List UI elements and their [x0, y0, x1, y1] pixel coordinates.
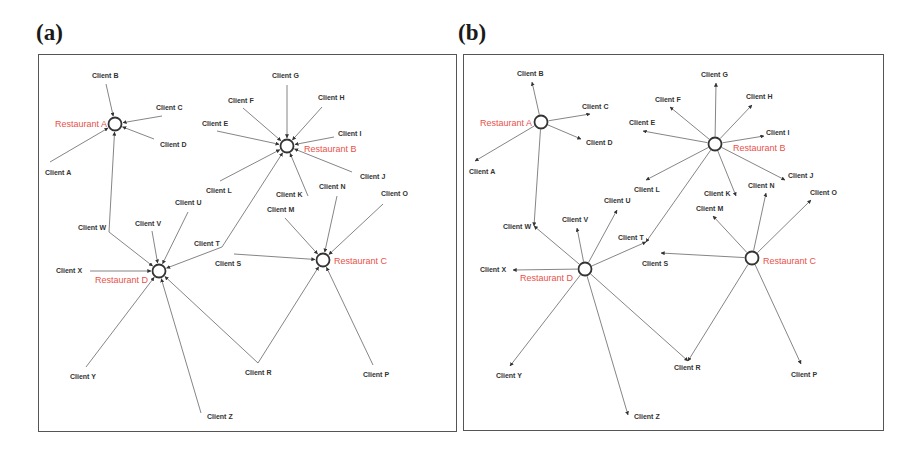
- label-client-i: Client I: [338, 130, 361, 137]
- label-client-y: Client Y: [496, 372, 522, 379]
- edge-client-a-to-restaurant-a: [50, 128, 108, 162]
- label-client-g: Client G: [272, 72, 299, 79]
- label-restaurant-b: Restaurant B: [304, 144, 357, 154]
- node-restaurant-a: [109, 118, 122, 131]
- label-client-u: Client U: [175, 199, 201, 206]
- node-restaurant-c: [746, 252, 759, 265]
- edge-restaurant-d-to-client-w: [534, 226, 579, 264]
- label-client-d: Client D: [586, 139, 612, 146]
- label-client-j: Client J: [788, 172, 813, 179]
- label-client-o: Client O: [810, 189, 837, 196]
- node-restaurant-d: [153, 265, 166, 278]
- edge-client-t-to-restaurant-b: [222, 153, 283, 247]
- edge-client-k-to-restaurant-b: [290, 153, 308, 196]
- edge-restaurant-b-to-client-l: [646, 147, 708, 180]
- edge-restaurant-b-to-client-g: [715, 83, 716, 137]
- edge-restaurant-d-to-client-x: [513, 269, 578, 270]
- label-client-v: Client V: [135, 220, 161, 227]
- label-client-p: Client P: [363, 371, 389, 378]
- edge-client-d-to-restaurant-a: [122, 127, 154, 139]
- edge-restaurant-c-to-client-n: [754, 193, 766, 251]
- label-client-f: Client F: [228, 97, 254, 104]
- label-client-w: Client W: [78, 224, 106, 231]
- edge-restaurant-d-to-client-v: [577, 228, 584, 262]
- label-restaurant-c: Restaurant C: [763, 256, 817, 266]
- edge-client-o-to-restaurant-c: [329, 204, 383, 255]
- edge-client-h-to-restaurant-b: [292, 107, 322, 140]
- edge-restaurant-c-to-client-p: [755, 265, 801, 364]
- label-client-z: Client Z: [634, 413, 660, 420]
- label-client-m: Client M: [696, 205, 723, 212]
- edge-restaurant-d-to-client-z: [587, 276, 628, 415]
- edge-client-z-to-restaurant-d: [161, 279, 201, 413]
- node-restaurant-b: [281, 140, 294, 153]
- label-restaurant-a: Restaurant A: [480, 118, 532, 128]
- node-restaurant-a: [535, 116, 548, 129]
- label-client-x: Client X: [56, 267, 82, 274]
- edge-client-v-to-restaurant-d: [152, 231, 158, 263]
- label-client-n: Client N: [748, 182, 774, 189]
- edge-restaurant-a-to-client-d: [548, 125, 581, 139]
- label-client-x: Client X: [480, 266, 506, 273]
- label-client-u: Client U: [604, 197, 630, 204]
- label-client-z: Client Z: [207, 413, 233, 420]
- label-client-s: Client S: [215, 260, 241, 267]
- label-client-p: Client P: [791, 371, 817, 378]
- network-diagrams: Restaurant ARestaurant BRestaurant CRest…: [0, 0, 915, 449]
- label-client-y: Client Y: [70, 373, 96, 380]
- label-client-l: Client L: [206, 187, 232, 194]
- edge-client-t-to-restaurant-d: [166, 247, 222, 268]
- label-restaurant-d: Restaurant D: [95, 275, 149, 285]
- label-client-d: Client D: [160, 141, 186, 148]
- label-client-c: Client C: [582, 103, 608, 110]
- node-restaurant-b: [709, 138, 722, 151]
- label-client-v: Client V: [562, 216, 588, 223]
- edge-restaurant-a-to-client-a: [475, 126, 535, 161]
- label-client-r: Client R: [674, 364, 700, 371]
- edge-restaurant-c-to-client-s: [661, 253, 745, 258]
- label-client-t: Client T: [194, 240, 220, 247]
- label-client-a: Client A: [469, 168, 495, 175]
- edge-client-p-to-restaurant-c: [326, 267, 373, 365]
- label-client-o: Client O: [381, 190, 408, 197]
- edge-restaurant-d-to-client-y: [510, 275, 580, 366]
- label-client-t: Client T: [618, 234, 644, 241]
- label-client-h: Client H: [318, 94, 344, 101]
- edge-client-y-to-restaurant-d: [86, 277, 154, 367]
- panel-a-graph: Restaurant ARestaurant BRestaurant CRest…: [45, 72, 408, 420]
- label-restaurant-a: Restaurant A: [55, 119, 107, 129]
- edge-restaurant-a-to-client-w: [534, 129, 540, 226]
- edge-restaurant-c-to-client-o: [757, 200, 811, 253]
- label-client-s: Client S: [642, 260, 668, 267]
- edge-client-f-to-restaurant-b: [243, 108, 281, 141]
- label-client-h: Client H: [746, 93, 772, 100]
- edge-client-w-to-restaurant-a: [109, 132, 115, 232]
- edge-restaurant-d-to-client-u: [589, 210, 617, 262]
- edge-client-r-to-restaurant-c: [258, 267, 319, 363]
- edge-restaurant-d-to-client-r: [591, 274, 688, 361]
- edge-restaurant-d-to-client-t: [592, 242, 646, 266]
- edge-restaurant-b-to-client-f: [670, 107, 709, 139]
- label-client-e: Client E: [202, 120, 228, 127]
- edge-client-e-to-restaurant-b: [217, 131, 279, 144]
- edge-restaurant-b-to-client-h: [720, 105, 752, 139]
- label-client-a: Client A: [45, 169, 71, 176]
- label-client-f: Client F: [655, 96, 681, 103]
- edge-client-u-to-restaurant-d: [163, 212, 188, 264]
- label-client-r: Client R: [245, 369, 271, 376]
- edge-restaurant-b-to-client-t: [646, 150, 711, 242]
- edge-restaurant-a-to-client-c: [548, 114, 590, 121]
- label-restaurant-c: Restaurant C: [334, 256, 388, 266]
- label-client-b: Client B: [92, 72, 118, 79]
- label-client-e: Client E: [629, 119, 655, 126]
- label-client-c: Client C: [156, 104, 182, 111]
- edge-client-m-to-restaurant-c: [285, 218, 318, 254]
- label-client-j: Client J: [360, 173, 385, 180]
- label-restaurant-b: Restaurant B: [733, 143, 786, 153]
- label-client-w: Client W: [503, 223, 531, 230]
- edge-restaurant-c-to-client-r: [688, 264, 748, 361]
- edge-client-n-to-restaurant-c: [325, 196, 337, 252]
- edge-restaurant-a-to-client-b: [532, 82, 539, 115]
- edge-client-r-to-restaurant-d: [165, 276, 258, 363]
- edge-client-l-to-restaurant-b: [220, 150, 280, 181]
